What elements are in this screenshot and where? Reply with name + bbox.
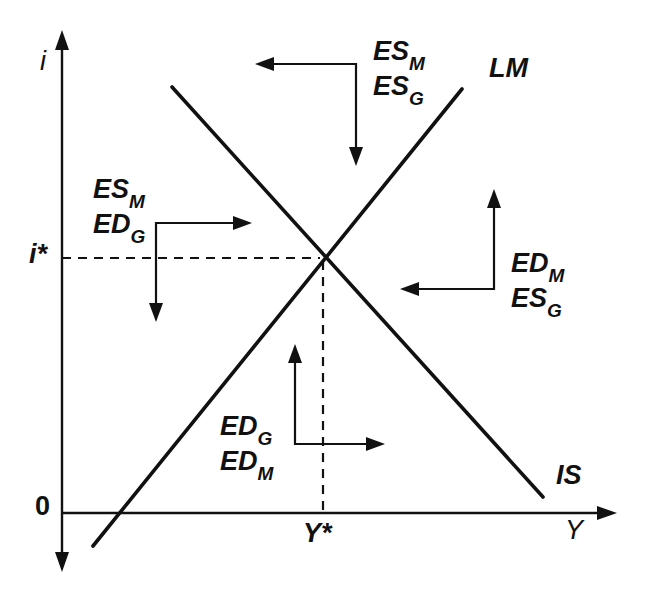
- arrow-bottom-right-head: [366, 437, 385, 451]
- arrow-right-up-head: [487, 189, 501, 208]
- arrow-left-down-head: [149, 303, 163, 322]
- arrow-top-down-head: [349, 147, 363, 166]
- annotation-arrow-top: [255, 57, 363, 166]
- x-axis: [62, 506, 617, 520]
- arrow-top-left-head: [255, 57, 274, 71]
- is-lm-diagram: i Y 0 i* Y* LM IS ESM ESG ESM EDG EDM ES…: [0, 0, 649, 591]
- annotation-label-right: EDM ESG: [511, 248, 564, 317]
- annotation-label-left: ESM EDG: [93, 174, 145, 243]
- annotation-label-left-line1: ESM: [93, 174, 145, 209]
- x-tick-label-y-star: Y*: [303, 520, 332, 547]
- origin-label: 0: [35, 493, 50, 520]
- annotation-label-top: ESM ESG: [373, 36, 425, 105]
- y-axis-up-arrowhead: [55, 30, 69, 50]
- annotation-arrow-bottom: [288, 344, 385, 451]
- annotation-arrow-right: [400, 189, 501, 296]
- lm-curve: [93, 89, 462, 546]
- arrow-bottom-up-head: [288, 344, 302, 363]
- annotation-label-top-line1: ESM: [373, 36, 425, 71]
- lm-curve-label: LM: [489, 55, 528, 82]
- y-axis-down-arrowhead: [55, 552, 69, 572]
- y-axis: [55, 30, 69, 572]
- arrow-left-right-head: [233, 216, 252, 230]
- annotation-label-bottom-line2: EDM: [220, 446, 273, 481]
- annotation-arrow-left: [149, 216, 252, 322]
- arrow-right-left-head: [400, 282, 419, 296]
- annotation-label-bottom-line1: EDG: [220, 411, 273, 446]
- x-axis-label: Y: [565, 517, 583, 544]
- annotation-label-right-line2: ESG: [511, 283, 564, 318]
- is-curve-label: IS: [556, 462, 582, 489]
- y-tick-label-i-star: i*: [29, 241, 47, 268]
- annotation-label-left-line2: EDG: [93, 209, 145, 244]
- x-axis-right-arrowhead: [597, 506, 617, 520]
- annotation-label-bottom: EDG EDM: [220, 411, 273, 480]
- y-axis-label: i: [40, 48, 46, 75]
- annotation-label-right-line1: EDM: [511, 248, 564, 283]
- annotation-label-top-line2: ESG: [373, 71, 425, 106]
